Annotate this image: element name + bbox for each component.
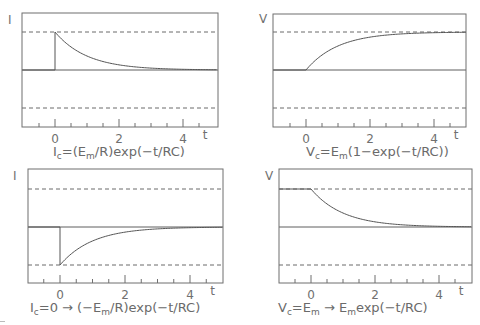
- caption-text: V: [278, 300, 287, 315]
- formula-caption: Vc=Em(1−exp(−t/RC)): [306, 144, 449, 161]
- caption-subscript: m: [101, 307, 110, 317]
- x-axis-label: t: [454, 128, 459, 142]
- caption-text: (1−exp(−t/RC)): [348, 144, 449, 159]
- formula-caption: Ic=0 → (−Em/R)exp(−t/RC): [30, 300, 200, 317]
- caption-text: exp(−t/RC): [356, 300, 428, 315]
- caption-text: /R)exp(−t/RC): [95, 144, 185, 159]
- rc-circuit-figure: 024tIIc=(Em/R)exp(−t/RC)024tVVc=Em(1−exp…: [0, 0, 480, 325]
- panel-top-right: 024tVVc=Em(1−exp(−t/RC)): [259, 12, 466, 161]
- plot-frame: [28, 169, 223, 283]
- caption-subscript: m: [339, 151, 348, 161]
- caption-text: =E: [292, 300, 311, 315]
- panel-top-left: 024tIIc=(Em/R)exp(−t/RC): [8, 13, 218, 161]
- x-axis-label: t: [210, 284, 215, 298]
- caption-subscript: m: [311, 307, 320, 317]
- caption-text: V: [306, 144, 315, 159]
- x-axis-label: t: [203, 128, 208, 142]
- panels: 024tIIc=(Em/R)exp(−t/RC)024tVVc=Em(1−exp…: [8, 12, 472, 317]
- y-axis-label: I: [13, 169, 17, 183]
- response-curve: [28, 227, 223, 265]
- x-tick-label: 4: [435, 288, 443, 302]
- y-axis-label: V: [259, 12, 268, 26]
- corner-mark: [0, 321, 5, 322]
- x-axis-label: t: [459, 284, 464, 298]
- caption-text: → E: [320, 300, 347, 315]
- caption-subscript: m: [86, 151, 95, 161]
- formula-caption: Ic=(Em/R)exp(−t/RC): [53, 144, 185, 161]
- panel-bottom-left: 024tIIc=0 → (−Em/R)exp(−t/RC): [13, 169, 223, 317]
- panel-bottom-right: 024tVVc=Em → Emexp(−t/RC): [265, 169, 472, 317]
- y-axis-label: V: [265, 169, 274, 183]
- caption-text: =E: [320, 144, 339, 159]
- caption-subscript: m: [347, 307, 356, 317]
- formula-caption: Vc=Em → Emexp(−t/RC): [278, 300, 428, 317]
- y-axis-label: I: [8, 13, 12, 27]
- response-curve: [279, 189, 471, 227]
- response-curve: [273, 32, 466, 70]
- caption-text: /R)exp(−t/RC): [110, 300, 200, 315]
- caption-text: =(E: [62, 144, 86, 159]
- caption-text: =0 → (−E: [39, 300, 102, 315]
- response-curve: [22, 32, 217, 70]
